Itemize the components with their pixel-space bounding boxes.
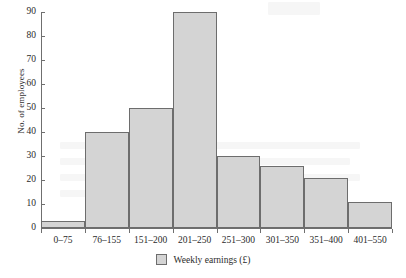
histogram-bar (217, 156, 261, 228)
histogram-bar (85, 132, 129, 228)
x-axis-tick-label: 151–200 (129, 235, 173, 245)
x-axis-tick-label: 351–400 (304, 235, 348, 245)
y-axis-tick-label: 70 (6, 54, 36, 64)
x-axis-tick (392, 229, 393, 233)
y-axis-tick-label: 60 (6, 78, 36, 88)
x-axis-tick (217, 229, 218, 233)
x-axis-tick-label: 76–155 (85, 235, 129, 245)
x-axis-tick (129, 229, 130, 233)
histogram-bar (41, 221, 85, 228)
histogram-bar (260, 166, 304, 228)
x-axis-tick-label: 201–250 (173, 235, 217, 245)
histogram-bar (348, 202, 392, 228)
x-axis-tick (173, 229, 174, 233)
y-axis-tick-label: 0 (6, 222, 36, 232)
histogram-bar (129, 108, 173, 228)
y-axis-tick-label: 20 (6, 174, 36, 184)
y-axis-tick-label: 50 (6, 102, 36, 112)
chart-legend: Weekly earnings (£) (0, 254, 406, 265)
x-axis-tick (304, 229, 305, 233)
histogram-bar (173, 12, 217, 228)
y-axis-tick-label: 40 (6, 126, 36, 136)
histogram-chart: No. of employees 0102030405060708090 0–7… (0, 0, 406, 278)
x-axis-tick-label: 401–550 (348, 235, 392, 245)
y-axis-tick-label: 30 (6, 150, 36, 160)
x-axis-tick (260, 229, 261, 233)
x-axis-tick-label: 0–75 (41, 235, 85, 245)
x-axis-tick (85, 229, 86, 233)
y-axis-tick-label: 10 (6, 198, 36, 208)
legend-label: Weekly earnings (£) (174, 255, 251, 265)
y-axis-tick-label: 80 (6, 30, 36, 40)
x-axis-tick-label: 301–350 (260, 235, 304, 245)
x-axis-tick (41, 229, 42, 233)
y-axis-tick-label: 90 (6, 6, 36, 16)
plot-area (41, 12, 392, 228)
x-axis-tick-label: 251–300 (217, 235, 261, 245)
legend-swatch-icon (156, 254, 167, 265)
histogram-bar (304, 178, 348, 228)
x-axis-tick (348, 229, 349, 233)
